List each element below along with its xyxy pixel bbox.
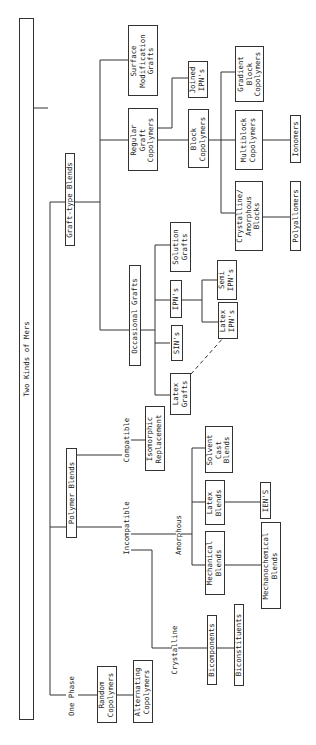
node-label: SIN's <box>173 332 182 354</box>
node-solution-grafts: Solution Grafts <box>170 222 191 272</box>
node-label: Latex Blends <box>206 489 223 516</box>
node-label: Multiblock Copolymers <box>240 118 257 163</box>
node-label: Latex IPN's <box>219 309 236 331</box>
node-incompatible: Incompatible <box>122 497 132 559</box>
node-regular-graft-copolymers: Regular Graft Copolymers <box>128 108 158 171</box>
node-block-copolymers: Block Copolymers <box>188 109 209 168</box>
node-label: Isomorphic Replacement <box>146 414 163 463</box>
node-label: IEN'S <box>261 489 270 511</box>
node-latex-grafts: Latex Grafts <box>170 373 191 415</box>
root-label: Two Kinds of Mers <box>22 321 31 397</box>
node-label: Compatible <box>123 418 132 463</box>
node-label: Joined IPN's <box>189 66 206 93</box>
node-random-copolymers: Random Copolymers <box>97 666 117 723</box>
node-label: Crystalline <box>171 626 180 675</box>
node-label: Solvent Cast Blends <box>206 434 232 465</box>
node-label: Biconstituents <box>235 614 244 676</box>
node-isomorphic-replacement: Isomorphic Replacement <box>145 406 165 471</box>
node-label: Random Copolymers <box>98 672 115 717</box>
node-alternating-copolymers: Alternating Copolymers <box>133 660 153 723</box>
node-sins: SIN's <box>171 325 183 361</box>
node-label: Mechanical Blends <box>206 541 223 586</box>
node-crystalline: Crystalline <box>170 620 180 680</box>
node-label: Regular Graft Copolymers <box>130 117 156 162</box>
node-one-phase: One Phase <box>66 670 78 722</box>
node-label: Ionomers <box>291 121 300 157</box>
connector-lines <box>0 0 316 745</box>
node-latex-ipns: Latex IPN's <box>218 302 238 339</box>
node-label: Mechanochemical Blends <box>262 532 279 599</box>
node-label: Latex Grafts <box>172 381 189 408</box>
node-label: Occasional Grafts <box>131 278 140 354</box>
node-gradient-block-copolymers: Gradient Block Copolymers <box>235 46 264 102</box>
node-semi-ipns: Semi IPN's <box>217 260 237 300</box>
node-ionomers: Ionomers <box>290 115 301 163</box>
node-label: Polymer Blends <box>67 462 76 524</box>
node-graft-type-blends: Graft-type Blends <box>65 153 75 246</box>
node-polyallomers: Polyallomers <box>290 181 301 251</box>
node-surface-modification-grafts: Surface Modification Grafts <box>128 25 158 96</box>
node-label: One Phase <box>68 676 77 716</box>
node-label: Crystalline/ Amorphous Blocks <box>236 189 262 242</box>
node-biconstituents: Biconstituents <box>234 604 244 686</box>
node-mechanochemical-blends: Mechanochemical Blends <box>261 522 281 609</box>
node-latex-blends: Latex Blends <box>205 480 225 525</box>
node-label: Block Copolymers <box>190 116 207 161</box>
node-amorphous: Amorphous <box>174 510 184 560</box>
polymer-classification-diagram: Two Kinds of Mers Graft-type Blends Poly… <box>0 0 316 745</box>
node-iens: IEN'S <box>260 482 271 519</box>
node-label: Bicomponents <box>208 623 217 676</box>
root-node-two-kinds-of-mers: Two Kinds of Mers <box>19 18 34 720</box>
node-label: IPN's <box>172 288 181 310</box>
node-occasional-grafts: Occasional Grafts <box>129 265 141 366</box>
node-compatible: Compatible <box>122 413 132 467</box>
node-joined-ipns: Joined IPN's <box>188 61 208 98</box>
node-label: Incompatible <box>123 501 132 554</box>
node-label: Polyallomers <box>291 189 300 242</box>
node-polymer-blends: Polymer Blends <box>66 448 77 538</box>
node-solvent-cast-blends: Solvent Cast Blends <box>205 426 233 473</box>
node-label: Graft-type Blends <box>66 162 75 238</box>
node-crystalline-amorphous-blocks: Crystalline/ Amorphous Blocks <box>235 181 263 251</box>
node-label: Semi IPN's <box>218 269 235 291</box>
node-label: Alternating Copolymers <box>134 667 151 716</box>
node-label: Surface Modification Grafts <box>130 34 156 87</box>
node-label: Solution Grafts <box>172 229 189 265</box>
node-label: Gradient Block Copolymers <box>237 52 263 97</box>
node-bicomponents: Bicomponents <box>207 615 217 685</box>
node-ipns: IPN's <box>170 280 182 318</box>
node-multiblock-copolymers: Multiblock Copolymers <box>235 110 263 170</box>
node-label: Amorphous <box>175 515 184 555</box>
node-mechanical-blends: Mechanical Blends <box>205 531 225 595</box>
